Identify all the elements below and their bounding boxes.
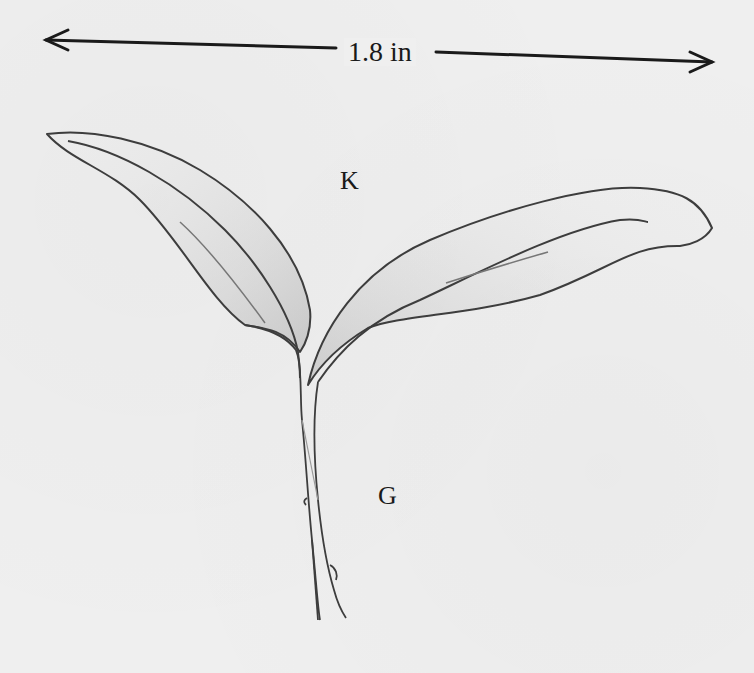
hypocotyl-stem bbox=[298, 352, 346, 620]
right-cotyledon bbox=[308, 188, 712, 385]
seedling-drawing bbox=[0, 0, 754, 673]
scale-label: 1.8 in bbox=[344, 38, 416, 66]
cotyledon-label: K bbox=[340, 168, 359, 194]
hypocotyl-label: G bbox=[378, 483, 397, 509]
left-cotyledon bbox=[47, 133, 310, 379]
